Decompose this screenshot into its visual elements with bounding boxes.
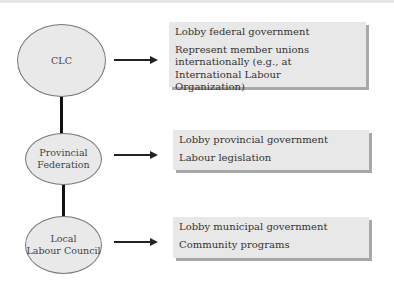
arrowhead-icon bbox=[150, 56, 158, 64]
function-item: Community programs bbox=[179, 239, 363, 252]
functions-box-clc: Lobby federal government Represent membe… bbox=[169, 22, 366, 87]
node-label-line: Federation bbox=[37, 159, 89, 170]
function-item: Represent member unions internationally … bbox=[175, 44, 360, 94]
arrow-clc bbox=[114, 59, 156, 61]
node-label-line: Labour Council bbox=[26, 245, 100, 256]
connector-clc-provincial bbox=[60, 96, 63, 134]
node-provincial-federation: Provincial Federation bbox=[25, 133, 102, 185]
top-border bbox=[0, 0, 394, 3]
node-clc-label: CLC bbox=[51, 55, 72, 67]
arrow-provincial bbox=[114, 154, 156, 156]
function-item: Lobby provincial government bbox=[179, 134, 363, 147]
function-item: Labour legislation bbox=[179, 152, 363, 165]
arrowhead-icon bbox=[150, 151, 158, 159]
function-item: Lobby municipal government bbox=[179, 221, 363, 234]
arrowhead-icon bbox=[150, 238, 158, 246]
node-local-labour-council: Local Labour Council bbox=[25, 216, 102, 274]
connector-provincial-local bbox=[62, 184, 65, 217]
node-local-labour-council-label: Local Labour Council bbox=[26, 233, 100, 257]
node-label-line: Provincial bbox=[39, 147, 87, 158]
node-provincial-federation-label: Provincial Federation bbox=[37, 147, 89, 171]
node-label-line: Local bbox=[50, 233, 76, 244]
function-item: Lobby federal government bbox=[175, 26, 360, 39]
functions-box-provincial: Lobby provincial government Labour legis… bbox=[173, 130, 369, 170]
functions-box-local: Lobby municipal government Community pro… bbox=[173, 217, 369, 258]
arrow-local bbox=[114, 241, 156, 243]
node-clc: CLC bbox=[17, 24, 106, 97]
